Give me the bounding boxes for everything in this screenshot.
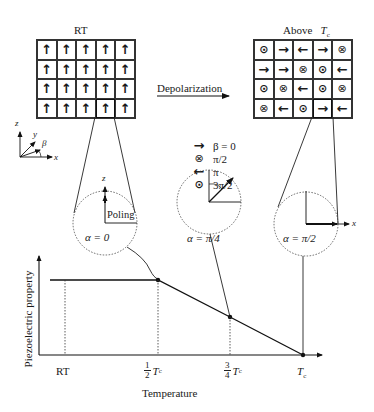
x-tick-three-quarter-tc: 34 Tc: [224, 361, 242, 380]
x-tick-rt: RT: [56, 366, 69, 377]
circle3-alpha-label: α = π/2: [283, 233, 316, 244]
poling-label: Poling: [107, 210, 134, 221]
axis-x-label: x: [54, 153, 58, 162]
axis-y-label: y: [33, 130, 37, 139]
half-den: 2: [145, 371, 150, 380]
circle3-x-label: x: [352, 219, 356, 228]
circle-to-curve-connectors: [127, 234, 303, 355]
x-tick-half-tc: 12 Tc: [144, 361, 162, 380]
circle1-alpha-label: α = 0: [85, 232, 109, 243]
x-tick-tc: Tc: [297, 366, 306, 380]
three-q-den: 4: [225, 371, 230, 380]
tc-c: c: [159, 367, 162, 375]
circle-alpha-pi-4: [177, 170, 241, 234]
circle2-alpha-label: α = π/4: [187, 233, 220, 244]
circle1-z-label: z: [102, 174, 106, 183]
axis-z-label: z: [15, 119, 19, 128]
dotted-guides: [65, 280, 230, 355]
axis-beta-label: β: [42, 139, 46, 148]
chart-axes: [39, 256, 322, 355]
y-axis-label: Piezoelectric property: [22, 271, 34, 368]
circle-alpha-0: [73, 187, 137, 255]
zoom-lines-right: [278, 117, 338, 224]
tc-c: c: [303, 372, 306, 380]
piezo-curve: [50, 278, 305, 357]
tc-c: c: [239, 367, 242, 375]
diagram-lines: [0, 0, 374, 412]
x-axis-label: Temperature: [142, 388, 197, 399]
